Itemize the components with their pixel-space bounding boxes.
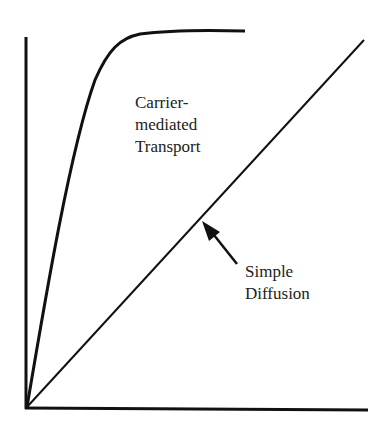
diffusion-label-2: Diffusion [245, 284, 310, 303]
carrier-label-2: mediated [135, 115, 198, 134]
carrier-label-1: Carrier- [135, 93, 189, 112]
svg-text:Transport: Transport [135, 137, 201, 156]
svg-text:Diffusion: Diffusion [245, 284, 310, 303]
carrier-label-3: Transport [135, 137, 201, 156]
svg-text:mediated: mediated [135, 115, 198, 134]
transport-diagram: Carrier- mediated Transport Simple Diffu… [0, 0, 380, 434]
x-axis [25, 408, 368, 410]
carrier-mediated-curve [27, 30, 245, 407]
simple-diffusion-line [27, 40, 364, 407]
svg-text:Simple: Simple [245, 262, 293, 281]
svg-text:Carrier-: Carrier- [135, 93, 189, 112]
diffusion-label-1: Simple [245, 262, 293, 281]
